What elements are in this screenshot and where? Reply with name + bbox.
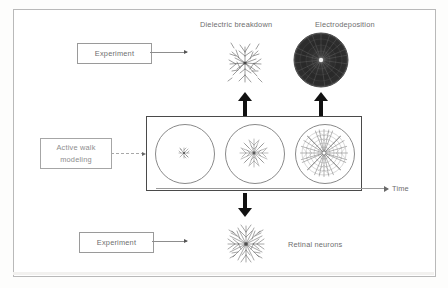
arrow-up-to-dielectric: [238, 92, 252, 116]
arrow-down-to-neurons: [238, 193, 252, 217]
experiment-bottom-connector-arrow: [152, 241, 187, 242]
retinal-neurons-label: Retinal neurons: [288, 240, 342, 250]
experiment-box-bottom-label: Experiment: [97, 238, 136, 247]
time-axis-arrow: [156, 188, 388, 189]
model-connector-arrow: [111, 153, 144, 154]
experiment-box-top[interactable]: Experiment: [77, 43, 152, 64]
model-box-line1: Active walk: [56, 142, 95, 153]
time-axis-label: Time: [392, 184, 409, 194]
retinal-neuron-image: [224, 222, 268, 266]
simulation-panel: [146, 116, 362, 191]
experiment-box-top-label: Experiment: [95, 49, 134, 58]
electrodeposition-label: Electrodeposition: [315, 20, 375, 30]
arrow-up-to-electrodeposition: [314, 92, 328, 116]
cluster-stage-early: [174, 143, 194, 163]
figure-root: Dielectric breakdown Electrodeposition E…: [0, 0, 448, 288]
cluster-stage-middle: [237, 136, 271, 170]
scan-edge-artifact: [13, 272, 434, 275]
experiment-top-connector-arrow: [150, 52, 187, 53]
dielectric-breakdown-label: Dielectric breakdown: [200, 20, 272, 30]
experiment-box-bottom[interactable]: Experiment: [79, 232, 154, 253]
cluster-stage-late: [299, 128, 349, 178]
dielectric-breakdown-image: [222, 38, 268, 88]
model-box-line2: modeling: [60, 154, 92, 165]
active-walk-modeling-box[interactable]: Active walk modeling: [40, 138, 112, 169]
electrodeposition-image: [292, 31, 350, 89]
